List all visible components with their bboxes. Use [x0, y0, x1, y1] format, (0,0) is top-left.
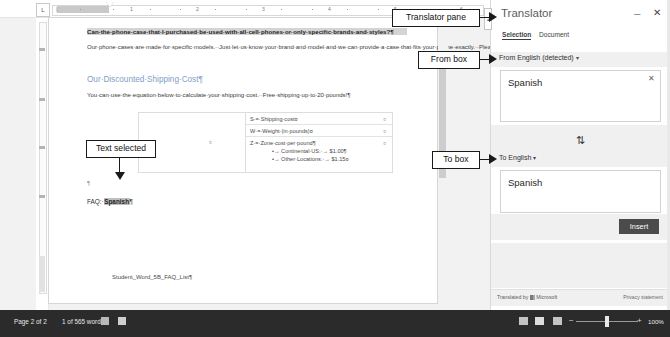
faq-answer-paragraph: Our·phone·cases·are·made·for·specific·mo…	[87, 43, 403, 53]
ruler-tick-1: 1	[130, 5, 133, 14]
ruler-dot	[150, 9, 151, 10]
ruler-dot	[281, 9, 282, 10]
callout-to-box: To box	[432, 151, 480, 169]
empty-paragraph-mark: ¶	[87, 180, 90, 186]
vertical-ruler-tick	[39, 146, 45, 149]
callout-arrow-head	[489, 154, 497, 164]
privacy-statement-link[interactable]: Privacy statement	[623, 294, 663, 300]
table-cell-shipping-cost: S·=·Shipping·cost¤	[246, 113, 392, 124]
translator-footer: Translated byMicrosoft Privacy statement	[491, 289, 670, 306]
translator-credit: Translated byMicrosoft	[497, 294, 557, 300]
clear-x-icon[interactable]: ✕	[648, 74, 655, 83]
callout-translator-pane: Translator pane	[392, 9, 480, 27]
ruler-indent-shading	[57, 6, 109, 13]
table-cell-weight: W·=·Weight·(in·pounds)¤	[246, 125, 392, 136]
ruler-tick-3: 3	[262, 5, 265, 14]
vertical-ruler[interactable]	[36, 18, 49, 310]
swap-languages-icon[interactable]: ⇅	[576, 134, 585, 147]
ruler-tick-4: 4	[328, 5, 331, 14]
zoom-slider-thumb[interactable]	[605, 316, 609, 327]
vertical-ruler-tick	[39, 48, 45, 51]
to-text-value: Spanish	[508, 177, 542, 188]
table-row[interactable]: W·=·Weight·(in·pounds)¤ ¤	[246, 125, 392, 137]
callout-arrow-head	[489, 54, 497, 64]
first-line-indent-marker[interactable]	[106, 2, 114, 7]
cell-end-mark: ¤	[383, 116, 386, 122]
table-bullet-continental-us: •→ Continental·US:·→ $1.00¶	[246, 148, 392, 156]
cell-end-mark: ¤	[209, 139, 212, 145]
proofing-errors-icon[interactable]	[101, 317, 109, 325]
credit-prefix: Translated by	[497, 294, 528, 300]
ruler-dot	[378, 9, 379, 10]
callout-text-selected: Text selected	[86, 140, 156, 158]
faq-spanish-line[interactable]: FAQ:·Spanish¶	[87, 198, 133, 205]
translator-empty-band	[491, 243, 670, 288]
cell-end-mark: ¤	[383, 128, 386, 134]
to-language-row[interactable]: To English▾	[491, 152, 670, 167]
from-language-selector[interactable]: From English (detected)▾	[499, 54, 579, 61]
microsoft-logo-icon	[530, 295, 535, 300]
selected-text-spanish[interactable]: Spanish	[104, 198, 130, 205]
tab-stop-icon[interactable]: L	[36, 3, 50, 17]
faq-question-heading: Can·the·phone·case·that·I·purchased·be·u…	[87, 28, 407, 35]
table-definitions-column: S·=·Shipping·cost¤ ¤ W·=·Weight·(in·poun…	[246, 113, 392, 172]
table-row[interactable]: S·=·Shipping·cost¤ ¤	[246, 113, 392, 125]
zoom-in-icon[interactable]: +	[637, 316, 642, 325]
status-bar: Page 2 of 2 1 of 565 words − + 100%	[0, 310, 670, 337]
shipping-instructions-paragraph: You·can·use·the·equation·below·to·calcul…	[87, 92, 417, 98]
ruler-tick-2: 2	[196, 5, 199, 14]
from-text-box[interactable]: Spanish ✕	[500, 70, 661, 122]
from-language-row[interactable]: From English (detected)▾	[491, 52, 670, 67]
from-language-label: From English (detected)	[499, 54, 574, 61]
ruler-dot	[246, 9, 247, 10]
accessibility-icon[interactable]	[118, 317, 126, 325]
zoom-level-label[interactable]: 100%	[648, 318, 664, 325]
tab-document[interactable]: Document	[539, 31, 569, 38]
table-row[interactable]: Z·=·Zone·cost·per·pound¶ ¤ •→ Continenta…	[246, 137, 392, 163]
word-application-window: L | 1 2 3 4 5 6	[0, 0, 670, 337]
page-indicator[interactable]: Page 2 of 2	[14, 318, 47, 325]
vertical-ruler-tick	[39, 98, 45, 101]
vertical-ruler-track	[39, 22, 47, 294]
insert-button[interactable]: Insert	[619, 219, 659, 234]
to-language-label: To English	[499, 154, 531, 161]
close-icon[interactable]: ✕	[653, 7, 661, 18]
chevron-down-icon: ▾	[533, 155, 536, 161]
callout-from-box: From box	[418, 51, 480, 69]
credit-brand: Microsoft	[536, 294, 557, 300]
document-filename-footer: Student_Word_5B_FAQ_List¶	[112, 274, 192, 280]
translator-pane-header: Translator ─ ✕	[491, 0, 670, 29]
ruler-dot	[347, 9, 348, 10]
cell-end-mark: ¤	[383, 140, 386, 146]
ruler-dot	[180, 9, 181, 10]
minimize-icon[interactable]: ─	[634, 9, 640, 19]
from-text-value: Spanish	[508, 77, 542, 88]
chevron-down-icon: ▾	[576, 55, 579, 61]
zoom-out-icon[interactable]: −	[569, 316, 574, 325]
translator-pane-title: Translator	[501, 7, 552, 19]
faq-line-prefix: FAQ:·	[87, 198, 104, 205]
shipping-cost-subheading: Our·Discounted·Shipping·Cost¶	[87, 75, 203, 84]
web-layout-icon[interactable]	[553, 317, 562, 325]
document-workspace: L | 1 2 3 4 5 6	[0, 0, 490, 310]
ruler-dot	[80, 9, 81, 10]
read-mode-icon[interactable]	[519, 317, 528, 325]
ruler-dot	[312, 9, 313, 10]
to-language-selector[interactable]: To English▾	[499, 154, 536, 161]
ruler-dot	[215, 9, 216, 10]
translator-pane: Translator ─ ✕ Selection Document From E…	[490, 0, 670, 310]
vertical-ruler-tick	[39, 195, 45, 198]
callout-arrow-head	[489, 12, 497, 22]
document-page[interactable]: Can·the·phone·case·that·I·purchased·be·u…	[49, 18, 437, 303]
tab-selection[interactable]: Selection	[502, 31, 531, 40]
ruler-dot	[113, 9, 114, 10]
ruler-tick-0: |	[56, 5, 57, 14]
translator-tab-strip: Selection Document	[491, 30, 670, 47]
callout-arrow-head	[115, 172, 125, 180]
to-text-box[interactable]: Spanish	[500, 170, 661, 213]
equation-legend-table[interactable]: ¤ S·=·Shipping·cost¤ ¤ W·=·Weight·(in·po…	[138, 112, 393, 173]
word-count-indicator[interactable]: 1 of 565 words	[62, 318, 104, 325]
vertical-ruler-margin-shading	[39, 256, 45, 292]
faq-line-suffix: ¶	[130, 198, 133, 205]
print-layout-icon[interactable]	[535, 317, 544, 325]
